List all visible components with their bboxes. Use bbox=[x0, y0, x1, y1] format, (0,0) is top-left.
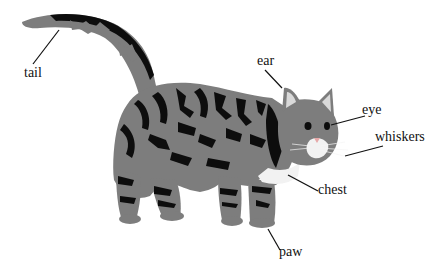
cat-eye-left bbox=[305, 122, 312, 130]
cat-illustration bbox=[0, 0, 440, 267]
label-eye: eye bbox=[362, 103, 381, 117]
label-whiskers: whiskers bbox=[375, 130, 425, 144]
label-ear: ear bbox=[257, 54, 274, 68]
leader-line-ear bbox=[265, 70, 282, 88]
cat-eye-right bbox=[324, 122, 330, 130]
label-tail: tail bbox=[24, 66, 42, 80]
leader-line-tail bbox=[33, 30, 59, 64]
cat-front-leg-left bbox=[218, 176, 242, 222]
leader-line-whiskers bbox=[345, 146, 383, 156]
label-paw: paw bbox=[279, 245, 302, 259]
leader-line-chest bbox=[288, 175, 318, 191]
label-chest: chest bbox=[318, 183, 347, 197]
cat-anatomy-diagram: tail ear eye whiskers chest paw bbox=[0, 0, 440, 267]
